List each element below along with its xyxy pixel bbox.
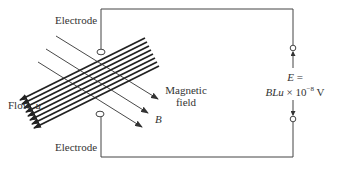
electrode-top-label: Electrode	[55, 14, 97, 26]
voltage-terminal-bottom	[290, 116, 296, 122]
flow-lines	[20, 38, 159, 128]
magnetic-field-line2: field	[158, 96, 214, 108]
emf-variable: E	[287, 71, 294, 83]
bottom-wire	[101, 117, 293, 157]
magnetic-field-label: Magnetic field	[158, 84, 214, 108]
flow-label: Flow, u	[8, 99, 41, 111]
emf-unit: V	[314, 86, 325, 98]
flow-variable: u	[35, 99, 41, 111]
flow-label-text: Flow,	[8, 99, 35, 111]
emf-equation: E = BLu × 10−8 V	[252, 71, 338, 98]
emf-multiplier: × 10	[284, 86, 307, 98]
field-variable-label: B	[155, 113, 162, 125]
emf-line1: E =	[252, 71, 338, 83]
electrode-bottom-label: Electrode	[55, 141, 97, 153]
emf-line2: BLu × 10−8 V	[252, 83, 338, 98]
emf-exponent: −8	[307, 85, 314, 93]
emf-equals: =	[294, 71, 303, 83]
top-wire	[101, 9, 293, 49]
magnetic-field-line1: Magnetic	[158, 84, 214, 96]
bottom-electrode-terminal	[96, 111, 104, 117]
voltage-terminal-top	[290, 45, 296, 51]
emf-blu: BLu	[265, 86, 283, 98]
top-electrode-terminal	[97, 49, 105, 55]
